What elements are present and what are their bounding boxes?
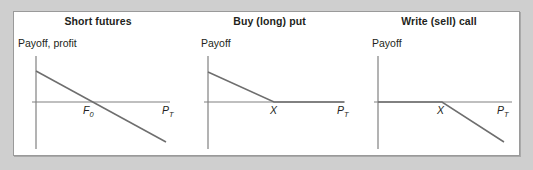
x-axis-label-base: P <box>497 104 504 116</box>
point-label-base: X <box>270 104 277 116</box>
payoff-line-short-futures <box>36 71 166 142</box>
panel-write-sell-call: Write (sell) call Payoff X PT <box>357 12 521 157</box>
plot-write-sell-call <box>357 12 521 157</box>
x-axis-label-subscript: T <box>344 110 349 119</box>
figure-frame: Short futures Payoff, profit F0 PT Buy (… <box>13 11 520 156</box>
x-axis-label-short-futures: PT <box>162 104 174 119</box>
plot-buy-long-put <box>182 12 357 157</box>
x-axis-label-buy-long-put: PT <box>337 104 349 119</box>
point-label-x-buy-long-put: X <box>270 104 277 119</box>
point-label-f0-short-futures: F0 <box>83 104 94 119</box>
point-label-x-write-sell-call: X <box>437 104 444 119</box>
plot-short-futures <box>14 12 182 157</box>
payoff-line-buy-long-put <box>208 72 344 102</box>
x-axis-label-subscript: T <box>504 110 509 119</box>
x-axis-label-write-sell-call: PT <box>497 104 509 119</box>
point-label-subscript: 0 <box>89 110 93 119</box>
payoff-diagram-figure: Short futures Payoff, profit F0 PT Buy (… <box>0 0 533 170</box>
point-label-base: X <box>437 104 444 116</box>
x-axis-label-subscript: T <box>169 110 174 119</box>
x-axis-label-base: P <box>162 104 169 116</box>
panel-short-futures: Short futures Payoff, profit F0 PT <box>14 12 182 157</box>
x-axis-label-base: P <box>337 104 344 116</box>
panel-buy-long-put: Buy (long) put Payoff X PT <box>182 12 357 157</box>
